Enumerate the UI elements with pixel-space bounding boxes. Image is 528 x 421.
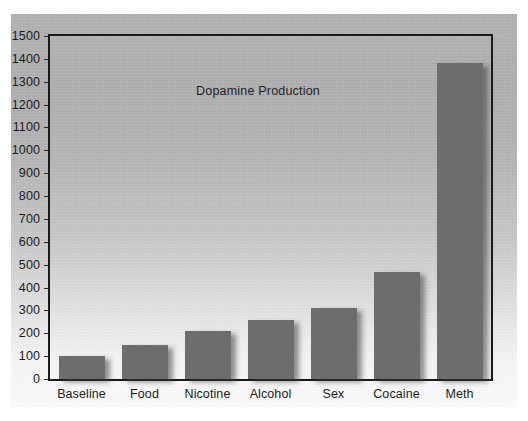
bar-slot — [437, 36, 483, 379]
bar-slot — [374, 36, 420, 379]
y-axis-tick-label: 800 — [19, 189, 44, 203]
y-axis-tick-label: 700 — [19, 212, 44, 226]
y-axis-tick-label: 500 — [19, 258, 44, 272]
y-axis-tick-label: 600 — [19, 235, 44, 249]
y-axis-tick-label: 1000 — [12, 143, 44, 157]
y-axis-tick-label: 1400 — [12, 52, 44, 66]
y-axis: 0100200300400500600700800900100011001200… — [0, 27, 44, 388]
chart-title: Dopamine Production — [196, 84, 320, 98]
y-axis-tick-label: 900 — [19, 166, 44, 180]
bar-food — [122, 345, 168, 379]
bar-baseline — [59, 356, 105, 379]
x-axis-label-sex: Sex — [302, 387, 365, 401]
y-axis-tick-label: 200 — [19, 326, 44, 340]
bar-meth — [437, 63, 483, 379]
y-axis-tick-label: 0 — [33, 372, 44, 386]
y-axis-tick-label: 1500 — [12, 29, 44, 43]
bar-alcohol — [248, 320, 294, 379]
bar-slot — [122, 36, 168, 379]
y-axis-tick-label: 300 — [19, 303, 44, 317]
chart-figure: 0100200300400500600700800900100011001200… — [0, 0, 528, 421]
x-axis-label-food: Food — [113, 387, 176, 401]
y-axis-tick-label: 400 — [19, 281, 44, 295]
y-axis-tick-label: 1100 — [13, 120, 44, 134]
y-axis-tick-label: 1300 — [12, 75, 44, 89]
x-axis-label-meth: Meth — [428, 387, 491, 401]
x-axis-labels: BaselineFoodNicotineAlcoholSexCocaineMet… — [48, 387, 493, 407]
bar-slot — [59, 36, 105, 379]
bar-sex — [311, 308, 357, 379]
bar-cocaine — [374, 272, 420, 379]
x-axis-label-nicotine: Nicotine — [176, 387, 239, 401]
bar-nicotine — [185, 331, 231, 379]
x-axis-label-cocaine: Cocaine — [365, 387, 428, 401]
y-axis-tick-label: 100 — [19, 349, 44, 363]
y-axis-tick-label: 1200 — [12, 98, 44, 112]
x-axis-label-baseline: Baseline — [50, 387, 113, 401]
x-axis-label-alcohol: Alcohol — [239, 387, 302, 401]
